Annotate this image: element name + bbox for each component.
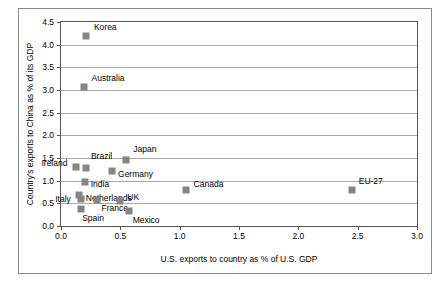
scatter-chart-figure: 0.00.51.01.52.02.53.03.54.04.5 0.00.51.0… xyxy=(0,0,444,282)
gridline xyxy=(61,45,417,46)
y-tick-mark xyxy=(57,22,61,23)
data-point-label: France xyxy=(102,204,128,213)
x-tick-label: 0.5 xyxy=(114,232,126,241)
data-point-label: Ireland xyxy=(41,159,67,168)
x-tick-label: 1.5 xyxy=(233,232,245,241)
data-point-label: Korea xyxy=(94,23,117,32)
y-tick-label: 4.5 xyxy=(42,18,54,27)
x-tick-label: 0.0 xyxy=(55,232,67,241)
x-tick-label: 2.0 xyxy=(292,232,304,241)
data-point-marker xyxy=(93,196,100,203)
x-tick-mark xyxy=(180,226,181,230)
x-tick-mark xyxy=(239,226,240,230)
y-tick-label: 3.0 xyxy=(42,86,54,95)
y-tick-mark xyxy=(57,45,61,46)
data-point-marker xyxy=(78,205,85,212)
x-tick-mark xyxy=(358,226,359,230)
data-point-marker xyxy=(81,179,88,186)
y-tick-label: 1.0 xyxy=(42,176,54,185)
y-tick-label: 0.5 xyxy=(42,199,54,208)
y-tick-mark xyxy=(57,113,61,114)
y-tick-label: 2.5 xyxy=(42,108,54,117)
y-tick-label: 3.5 xyxy=(42,63,54,72)
y-tick-mark xyxy=(57,67,61,68)
data-point-label: Canada xyxy=(194,180,224,189)
data-point-label: EU-27 xyxy=(359,177,383,186)
data-point-marker xyxy=(182,186,189,193)
data-point-label: Mexico xyxy=(133,216,160,225)
data-point-marker xyxy=(125,208,132,215)
data-point-label: India xyxy=(91,180,109,189)
data-point-marker xyxy=(82,32,89,39)
y-tick-mark xyxy=(57,90,61,91)
data-point-label: Brazil xyxy=(91,152,112,161)
x-tick-label: 1.0 xyxy=(174,232,186,241)
gridline xyxy=(61,67,417,68)
data-point-marker xyxy=(117,198,124,205)
x-tick-label: 3.0 xyxy=(411,232,423,241)
x-tick-mark xyxy=(61,226,62,230)
data-point-label: Australia xyxy=(92,74,125,83)
y-tick-label: 2.0 xyxy=(42,131,54,140)
x-axis-title: U.S. exports to country as % of U.S. GDP xyxy=(60,254,418,264)
x-tick-label: 2.5 xyxy=(352,232,364,241)
y-tick-mark xyxy=(57,181,61,182)
x-tick-mark xyxy=(298,226,299,230)
y-tick-label: 4.0 xyxy=(42,40,54,49)
data-point-marker xyxy=(82,164,89,171)
gridline xyxy=(61,90,417,91)
data-point-label: Japan xyxy=(133,145,156,154)
plot-area: 0.00.51.01.52.02.53.03.54.04.5 0.00.51.0… xyxy=(60,21,418,227)
y-tick-mark xyxy=(57,135,61,136)
data-point-marker xyxy=(73,164,80,171)
data-point-marker xyxy=(109,167,116,174)
y-axis-title: Country's exports to China as % of its G… xyxy=(25,21,37,227)
data-point-label: Germany xyxy=(118,170,153,179)
gridline xyxy=(61,158,417,159)
data-point-label: UK xyxy=(127,193,139,202)
data-point-marker xyxy=(78,195,85,202)
data-point-label: Italy xyxy=(55,195,71,204)
x-tick-mark xyxy=(120,226,121,230)
data-point-marker xyxy=(348,186,355,193)
data-point-label: Spain xyxy=(82,214,104,223)
gridline xyxy=(61,113,417,114)
data-point-marker xyxy=(123,157,130,164)
x-tick-mark xyxy=(417,226,418,230)
y-tick-label: 0.0 xyxy=(42,222,54,231)
data-point-marker xyxy=(80,83,87,90)
gridline xyxy=(61,135,417,136)
